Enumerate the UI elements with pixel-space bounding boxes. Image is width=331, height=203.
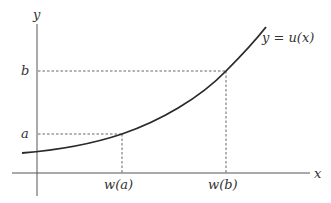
curve-label: y = u(x) — [261, 30, 314, 45]
tick-label-a: a — [21, 126, 29, 141]
tick-label-b: b — [21, 63, 29, 78]
y-axis-label: y — [32, 7, 41, 22]
tick-label-wb: w(b) — [208, 177, 238, 192]
utility-curve — [22, 27, 266, 153]
x-axis-label: x — [314, 166, 322, 181]
tick-label-wa: w(a) — [104, 177, 133, 192]
function-graph: y x b a w(a) w(b) y = u(x) — [0, 0, 331, 203]
